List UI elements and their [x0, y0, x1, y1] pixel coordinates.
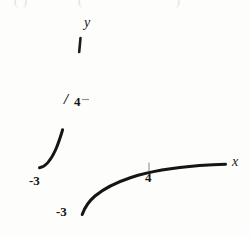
stray-slash-mark: /: [64, 92, 68, 107]
y-axis-label: y: [84, 16, 90, 30]
graph-figure: ( ) ( ) y x /: [0, 0, 250, 237]
y-axis-top-mark: [79, 38, 80, 52]
x-tick-label-neg3: -3: [29, 174, 40, 187]
x-axis-label: x: [232, 155, 238, 169]
x-tick-label-4: 4: [145, 171, 152, 184]
plot-area: [0, 0, 250, 237]
curve-right-branch: [82, 164, 225, 214]
curve-left-branch: [40, 130, 63, 168]
y-tick-label-neg3: -3: [56, 205, 67, 218]
y-tick-label-4: 4: [74, 95, 81, 108]
